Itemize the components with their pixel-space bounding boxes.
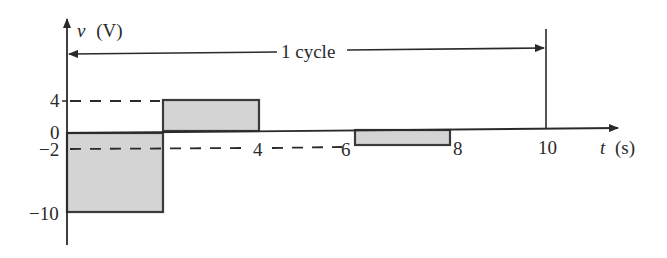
x-tick-4: 4: [253, 139, 263, 160]
y-tick-minus10: −10: [29, 203, 59, 224]
dashed-line-minus2v: [70, 148, 245, 149]
x-axis-label: t (s): [600, 137, 635, 159]
cycle-arrow-left: [69, 52, 277, 54]
segment-0-2s-minus10v: [67, 133, 163, 212]
segment-6-8s-minus2v: [355, 130, 450, 145]
y-axis-label: v (V): [77, 20, 123, 42]
x-axis-unit: (s): [615, 137, 635, 159]
t-axis: [67, 128, 618, 133]
cycle-arrow-right: [347, 48, 544, 50]
x-axis-var: t: [600, 137, 606, 158]
cycle-label: 1 cycle: [281, 41, 335, 62]
x-tick-6: 6: [341, 139, 351, 160]
y-axis-unit: (V): [96, 20, 122, 42]
y-tick-minus2: −2: [39, 139, 59, 160]
waveform-chart: 1 cycle v (V) 4 0 −2 −10 4 6 8 10 t (s): [0, 0, 667, 258]
waveform-figure: 1 cycle v (V) 4 0 −2 −10 4 6 8 10 t (s): [0, 0, 667, 258]
y-tick-4: 4: [50, 90, 60, 111]
x-tick-8: 8: [453, 138, 463, 159]
segment-2-4s-plus4v: [163, 100, 259, 131]
y-axis-var: v: [77, 20, 86, 41]
dashed-line-minus2v-continued: [272, 147, 342, 148]
x-tick-10: 10: [538, 137, 557, 158]
